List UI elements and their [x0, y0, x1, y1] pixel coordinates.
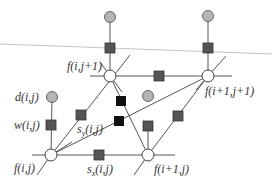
diagonal-factor-upper	[116, 96, 126, 106]
label-f-i-j: f(i,j)	[14, 161, 35, 175]
factor-top-left	[105, 43, 115, 53]
label-f-i1-j: f(i+1,j)	[154, 162, 189, 176]
label-w-i-j: w(i,j)	[14, 118, 40, 132]
factor-top-right	[203, 43, 213, 53]
label-sx-i-j: sx(i,j)	[87, 162, 113, 178]
diagonal-factor-lower	[114, 116, 124, 126]
data-node-i1-j	[143, 91, 154, 102]
background-guide-line	[0, 44, 272, 54]
factor-w-i1-j	[143, 121, 153, 131]
data-node-d-i-j	[47, 92, 58, 103]
factor-sx-top	[154, 71, 164, 81]
data-node-top-left	[105, 12, 116, 23]
factor-sy-i-j	[76, 110, 86, 120]
label-f-i-j1: f(i,j+1)	[67, 59, 102, 73]
factor-w-i-j	[46, 120, 56, 130]
variable-node-f-i1-j1	[202, 70, 214, 82]
data-node-top-right	[203, 11, 214, 22]
label-d-i-j: d(i,j)	[15, 90, 39, 104]
factor-sx-i-j	[94, 150, 104, 160]
factor-sy-i1-j	[173, 111, 183, 121]
variable-node-f-i-j	[45, 149, 57, 161]
factor-graph-diagram: f(i,j+1) f(i+1,j+1) d(i,j) w(i,j) f(i,j)…	[0, 0, 272, 184]
variable-node-f-i-j1	[104, 70, 116, 82]
label-sy-i-j: sy(i,j)	[77, 122, 103, 138]
edges	[32, 16, 232, 175]
variable-node-f-i1-j	[142, 149, 154, 161]
label-f-i1-j1: f(i+1,j+1)	[205, 84, 254, 98]
